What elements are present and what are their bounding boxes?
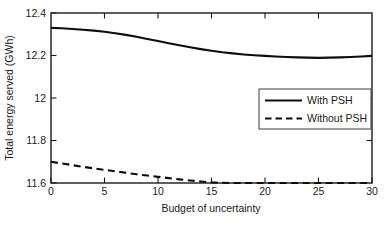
x-tick-30: 30 (366, 185, 378, 197)
figure-container: 0 5 10 15 20 25 30 11.6 11.8 12 12.2 12.… (0, 0, 389, 226)
y-tick-11-8: 11.8 (26, 134, 46, 146)
y-tick-12: 12 (34, 92, 46, 104)
legend[interactable]: With PSH Without PSH (259, 89, 371, 129)
x-tick-5: 5 (102, 185, 108, 197)
x-tick-20: 20 (259, 185, 271, 197)
y-tick-labels: 11.6 11.8 12 12.2 12.4 (26, 7, 47, 189)
x-tick-labels: 0 5 10 15 20 25 30 (48, 185, 378, 197)
legend-label-with-psh: With PSH (307, 94, 353, 106)
x-tick-25: 25 (313, 185, 325, 197)
y-tick-12-2: 12.2 (26, 49, 47, 61)
line-chart: 0 5 10 15 20 25 30 11.6 11.8 12 12.2 12.… (0, 0, 389, 226)
y-tick-12-4: 12.4 (26, 7, 47, 19)
legend-label-without-psh: Without PSH (307, 112, 367, 124)
y-tick-11-6: 11.6 (26, 177, 46, 189)
x-axis-title: Budget of uncertainty (161, 202, 261, 214)
x-tick-0: 0 (48, 185, 54, 197)
x-tick-10: 10 (152, 185, 164, 197)
x-tick-15: 15 (206, 185, 218, 197)
y-axis-title: Total energy served (GWh) (3, 35, 15, 160)
